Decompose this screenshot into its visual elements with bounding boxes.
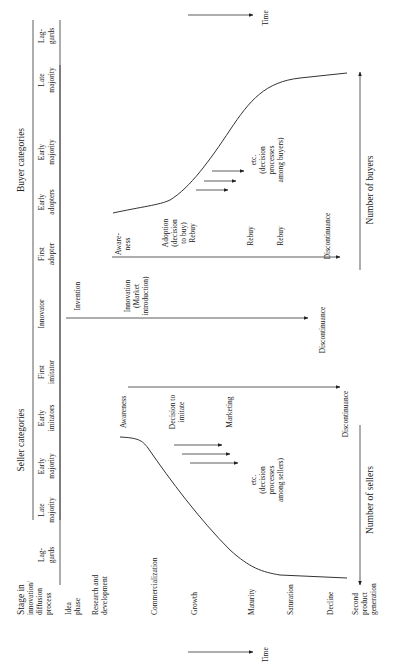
svg-text:Early: Early bbox=[37, 144, 46, 160]
svg-text:(decision: (decision bbox=[258, 466, 267, 494]
innovation-label: Innovation (Market introduction) bbox=[123, 276, 150, 316]
buyer-etc-label: etc. (decision processes among buyers) bbox=[249, 137, 285, 182]
svg-text:Early: Early bbox=[37, 194, 46, 210]
svg-text:innovation/: innovation/ bbox=[26, 580, 35, 615]
innovator-discontinuance-label: Discontinuance bbox=[318, 306, 327, 353]
svg-text:majority: majority bbox=[47, 67, 56, 93]
seller-discontinuance-label: Discontinuance bbox=[341, 390, 350, 437]
svg-text:(decision: (decision bbox=[258, 146, 267, 174]
svg-text:process: process bbox=[44, 592, 53, 615]
svg-text:introduction): introduction) bbox=[141, 276, 150, 316]
svg-text:First: First bbox=[37, 364, 46, 379]
svg-text:processes: processes bbox=[267, 466, 276, 495]
stage-commercialization: Commercialization bbox=[150, 557, 159, 615]
svg-text:phase: phase bbox=[73, 597, 82, 615]
svg-text:Early: Early bbox=[37, 410, 46, 426]
time-label-top: Time bbox=[261, 10, 270, 26]
buyer-discontinuance-label: Discontinuance bbox=[323, 212, 332, 259]
svg-text:ness: ness bbox=[123, 237, 132, 250]
svg-text:Adoption: Adoption bbox=[161, 219, 170, 248]
svg-text:Rebuy: Rebuy bbox=[188, 223, 197, 243]
seller-category-labels: Innovator First imitator Early imitators… bbox=[37, 299, 56, 563]
seller-etc-label: etc. (decision processes among sellers) bbox=[249, 458, 285, 502]
svg-text:adopters: adopters bbox=[47, 189, 56, 214]
buyer-rebuy-label-1: Rebuy bbox=[246, 226, 255, 246]
buyer-rebuy-label-2: Rebuy bbox=[276, 226, 285, 246]
svg-text:imitator: imitator bbox=[47, 360, 56, 384]
buyer-category-labels: Lag- gards Late majority Early majority … bbox=[37, 28, 56, 265]
svg-text:Late: Late bbox=[37, 503, 46, 517]
svg-text:majority: majority bbox=[47, 497, 56, 523]
svg-text:among buyers): among buyers) bbox=[276, 137, 285, 182]
svg-text:processes: processes bbox=[267, 146, 276, 175]
svg-text:Late: Late bbox=[37, 73, 46, 87]
stage-saturation: Saturation bbox=[286, 584, 295, 615]
svg-text:gards: gards bbox=[47, 28, 56, 44]
stage-idea: Idea bbox=[64, 601, 73, 615]
seller-marketing-label: Marketing bbox=[225, 396, 234, 427]
svg-text:Innovator: Innovator bbox=[37, 299, 46, 329]
time-label-bottom: Time bbox=[261, 647, 270, 662]
svg-text:generation: generation bbox=[369, 583, 378, 615]
seller-decision-arrows bbox=[174, 445, 238, 463]
buyer-adoption-label: Adoption (decision to buy) Rebuy bbox=[161, 219, 197, 248]
seller-awareness-label: Awareness bbox=[119, 396, 128, 428]
buyer-decision-arrows bbox=[196, 171, 244, 190]
svg-text:Early: Early bbox=[37, 458, 46, 474]
stage-second-generation: Second bbox=[351, 593, 360, 615]
buyers-axis-label: Number of buyers bbox=[365, 155, 375, 224]
seller-imitation-curve bbox=[120, 437, 347, 578]
svg-text:(Market: (Market bbox=[132, 283, 141, 308]
svg-text:imitate: imitate bbox=[177, 401, 186, 422]
svg-text:majority: majority bbox=[47, 453, 56, 479]
svg-text:Stage in: Stage in bbox=[16, 584, 26, 615]
stage-list: Idea phase Research and development Comm… bbox=[64, 557, 378, 615]
svg-text:Innovation: Innovation bbox=[123, 280, 132, 313]
stage-decline: Decline bbox=[326, 591, 335, 615]
sellers-axis-label: Number of sellers bbox=[365, 466, 375, 534]
diffusion-diagram: Seller categories Buyer categories Lag- … bbox=[0, 0, 400, 662]
svg-text:to buy): to buy) bbox=[179, 222, 188, 244]
svg-text:Decision to: Decision to bbox=[168, 395, 177, 430]
svg-text:diffusion: diffusion bbox=[35, 588, 44, 615]
svg-text:among sellers): among sellers) bbox=[276, 458, 285, 502]
seller-categories-title: Seller categories bbox=[16, 408, 26, 471]
buyer-awareness-label: Aware- ness bbox=[114, 233, 132, 255]
svg-text:Lag-: Lag- bbox=[37, 28, 46, 43]
stage-growth: Growth bbox=[190, 592, 199, 615]
buyer-adoption-curve bbox=[113, 73, 347, 213]
stage-maturity: Maturity bbox=[247, 589, 256, 615]
invention-label: Invention bbox=[73, 281, 82, 310]
svg-text:imitators: imitators bbox=[47, 405, 56, 432]
seller-decision-label: Decision to imitate bbox=[168, 395, 186, 430]
svg-text:Lag-: Lag- bbox=[37, 547, 46, 562]
svg-text:(decision: (decision bbox=[170, 219, 179, 247]
svg-text:product: product bbox=[360, 591, 369, 615]
svg-text:etc.: etc. bbox=[249, 155, 258, 166]
svg-text:development: development bbox=[100, 575, 109, 615]
stage-header: Stage in innovation/ diffusion process bbox=[16, 580, 53, 615]
stage-rnd: Research and bbox=[91, 575, 100, 615]
svg-text:majority: majority bbox=[47, 139, 56, 165]
svg-text:adopter: adopter bbox=[47, 242, 56, 265]
svg-text:Aware-: Aware- bbox=[114, 233, 123, 255]
svg-text:etc.: etc. bbox=[249, 475, 258, 486]
svg-text:gards: gards bbox=[47, 547, 56, 563]
buyer-categories-title: Buyer categories bbox=[16, 128, 26, 192]
svg-text:First: First bbox=[37, 246, 46, 261]
